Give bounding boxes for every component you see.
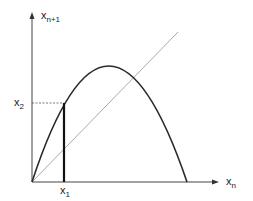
x2-label: x2 (14, 97, 24, 111)
y-axis-label: xn+1 (41, 10, 60, 24)
y-axis (30, 12, 35, 182)
x1-label: x1 (60, 185, 70, 199)
identity-diagonal (32, 32, 178, 182)
x-axis-label: xn (226, 176, 236, 190)
logistic-curve (32, 66, 187, 182)
cobweb-diagram (0, 0, 253, 201)
x-axis-arrow-icon (212, 180, 219, 185)
y-axis-arrow-icon (30, 12, 35, 19)
